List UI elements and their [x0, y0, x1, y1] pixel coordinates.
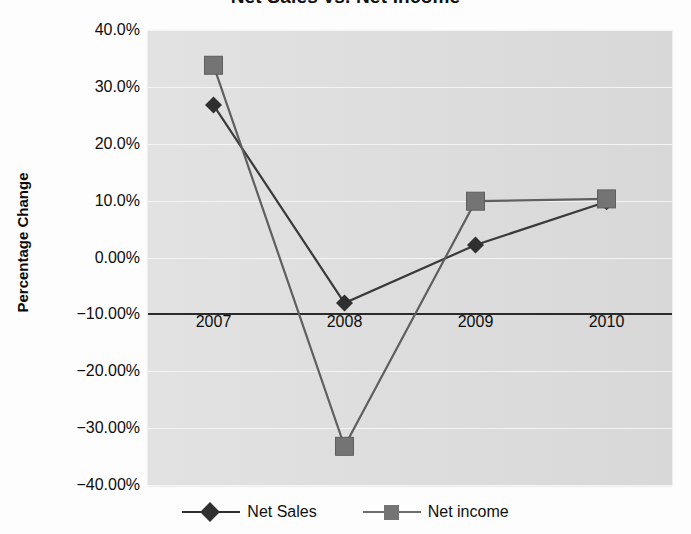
y-axis-tick-label: −30.00%	[8, 419, 140, 437]
y-axis-tick-label: −40.00%	[8, 476, 140, 494]
series-line-net-income	[214, 65, 607, 446]
data-point-marker[interactable]	[598, 190, 616, 208]
legend-label-net-income: Net income	[428, 503, 509, 521]
legend-item-net-income[interactable]: Net income	[363, 503, 509, 521]
data-point-marker[interactable]	[467, 236, 484, 253]
gridline	[148, 485, 672, 486]
y-axis-tick-label: 40.0%	[8, 21, 140, 39]
y-axis-tick-label: 10.0%	[8, 192, 140, 210]
chart-data-layer	[148, 30, 672, 485]
legend-label-net-sales: Net Sales	[247, 503, 316, 521]
y-axis-tick-label: 30.0%	[8, 78, 140, 96]
chart-legend: Net Sales Net income	[0, 497, 691, 527]
y-axis-tick-label: −20.00%	[8, 362, 140, 380]
diamond-marker-icon	[182, 504, 240, 520]
series-line-net-sales	[214, 105, 607, 303]
square-marker-icon	[363, 504, 421, 520]
data-point-marker[interactable]	[205, 56, 223, 74]
data-point-marker[interactable]	[205, 97, 222, 114]
chart-title: Net Sales vs. Net Income	[0, 0, 691, 8]
data-point-marker[interactable]	[336, 437, 354, 455]
y-axis-tick-label: 20.0%	[8, 135, 140, 153]
legend-item-net-sales[interactable]: Net Sales	[182, 503, 316, 521]
data-point-marker[interactable]	[336, 295, 353, 312]
chart-container: Net Sales vs. Net Income Percentage Chan…	[0, 0, 691, 534]
y-axis-tick-label: 0.00%	[8, 249, 140, 267]
data-point-marker[interactable]	[467, 192, 485, 210]
y-axis-tick-label: −10.00%	[8, 305, 140, 323]
y-axis-tick-labels: 40.0%30.0%20.0%10.0%0.00%−10.00%−20.00%−…	[0, 30, 140, 485]
